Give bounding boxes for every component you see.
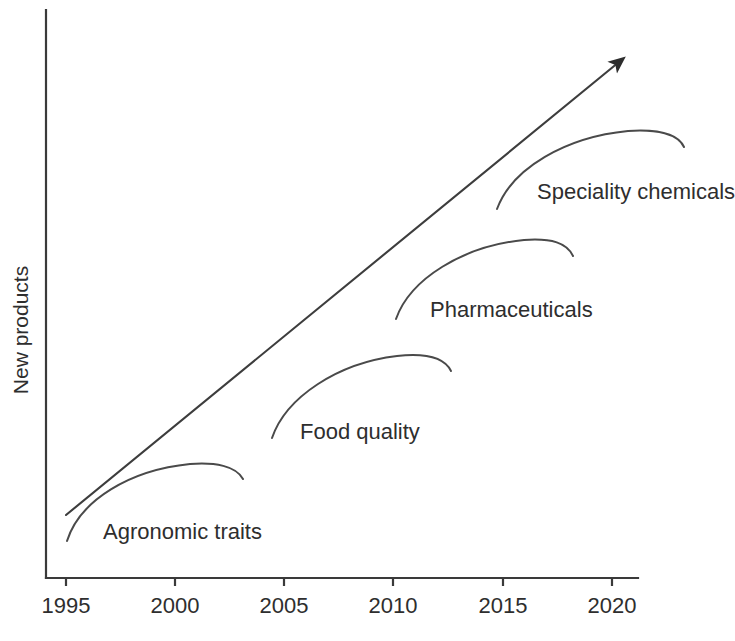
curve-label-food-quality: Food quality xyxy=(300,419,420,444)
tick-label-2005: 2005 xyxy=(260,593,309,618)
tick-label-2000: 2000 xyxy=(151,593,200,618)
chart-canvas: 1995 2000 2005 2010 2015 2020 New produc… xyxy=(0,0,735,641)
tick-label-2015: 2015 xyxy=(479,593,528,618)
tick-label-2020: 2020 xyxy=(588,593,637,618)
chart-container: 1995 2000 2005 2010 2015 2020 New produc… xyxy=(0,0,735,641)
overall-growth-arrow xyxy=(66,62,619,515)
curve-label-pharmaceuticals: Pharmaceuticals xyxy=(430,297,593,322)
tick-label-1995: 1995 xyxy=(42,593,91,618)
tick-label-2010: 2010 xyxy=(369,593,418,618)
curve-label-agronomic-traits: Agronomic traits xyxy=(103,519,262,544)
y-axis-title: New products xyxy=(9,266,32,394)
curve-label-speciality-chemicals: Speciality chemicals xyxy=(537,179,735,204)
x-axis-tick-labels: 1995 2000 2005 2010 2015 2020 xyxy=(42,593,637,618)
x-axis-ticks xyxy=(66,578,612,586)
